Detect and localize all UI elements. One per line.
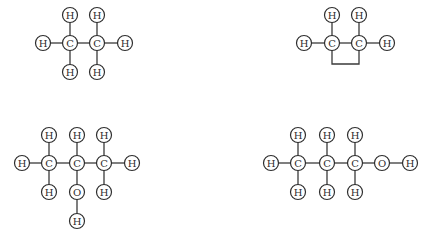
molecule-1-propanol: HCCCOHHHHHHH <box>264 128 418 200</box>
atom-label: C <box>66 38 74 49</box>
atom-c-c2: C <box>70 156 85 171</box>
atom-label: H <box>351 130 360 141</box>
atom-label: H <box>93 67 102 78</box>
atom-h-h1: H <box>264 156 279 171</box>
atom-h-h5: H <box>90 65 105 80</box>
atom-label: H <box>45 187 54 198</box>
atom-label: H <box>351 187 360 198</box>
atom-o-o1: O <box>375 156 390 171</box>
atom-c-c3: C <box>348 156 363 171</box>
molecule-2-propanol: CCCHHHHOHHHH <box>15 128 140 229</box>
atom-label: C <box>45 158 53 169</box>
atom-c-c1: C <box>325 36 340 51</box>
atom-h-h2: H <box>63 8 78 23</box>
atom-h-h6: H <box>118 36 133 51</box>
atom-h-h4: H <box>320 128 335 143</box>
atom-h-h2: H <box>325 8 340 23</box>
atom-label: H <box>328 10 337 21</box>
atom-label: O <box>378 158 386 169</box>
atom-label: C <box>328 38 336 49</box>
atom-c-c2: C <box>320 156 335 171</box>
atom-label: H <box>406 158 415 169</box>
atom-c-c1: C <box>63 36 78 51</box>
atom-label: H <box>323 130 332 141</box>
atom-h-h1: H <box>36 36 51 51</box>
atom-h-h5: H <box>70 214 85 229</box>
atom-label: H <box>66 10 75 21</box>
atom-label: C <box>93 38 101 49</box>
atom-h-h2: H <box>42 128 57 143</box>
atom-label: H <box>355 10 364 21</box>
atom-label: C <box>351 158 359 169</box>
atom-label: H <box>45 130 54 141</box>
atom-label: H <box>100 187 109 198</box>
molecule-ethane: CCHHHHHH <box>36 8 133 80</box>
atom-c-c1: C <box>291 156 306 171</box>
atom-label: H <box>100 130 109 141</box>
atom-h-h1: H <box>297 36 312 51</box>
atom-label: H <box>18 158 27 169</box>
atom-c-c3: C <box>97 156 112 171</box>
atom-label: H <box>39 38 48 49</box>
atom-h-h8: H <box>125 156 140 171</box>
atom-label: H <box>294 130 303 141</box>
atom-label: H <box>383 38 392 49</box>
atom-h-h3: H <box>42 185 57 200</box>
atom-label: H <box>300 38 309 49</box>
atom-label: H <box>128 158 137 169</box>
atom-h-h4: H <box>90 8 105 23</box>
atom-h-h3: H <box>63 65 78 80</box>
atom-h-h7: H <box>97 185 112 200</box>
atom-label: C <box>323 158 331 169</box>
atom-label: C <box>355 38 363 49</box>
atom-label: H <box>267 158 276 169</box>
atom-h-h3: H <box>352 8 367 23</box>
ring-bond <box>332 50 359 64</box>
atom-h-h6: H <box>348 128 363 143</box>
atom-label: H <box>121 38 130 49</box>
atom-h-h5: H <box>320 185 335 200</box>
atom-label: H <box>66 67 75 78</box>
atom-c-c2: C <box>352 36 367 51</box>
atom-label: H <box>73 216 82 227</box>
atom-h-h2: H <box>291 128 306 143</box>
atom-label: H <box>73 130 82 141</box>
atom-c-c2: C <box>90 36 105 51</box>
atom-c-c1: C <box>42 156 57 171</box>
atom-h-h4: H <box>380 36 395 51</box>
atom-label: C <box>294 158 302 169</box>
atom-label: O <box>73 187 81 198</box>
atom-h-h1: H <box>15 156 30 171</box>
atom-h-h3: H <box>291 185 306 200</box>
atom-h-h6: H <box>97 128 112 143</box>
atom-label: H <box>93 10 102 21</box>
atom-label: C <box>100 158 108 169</box>
atom-label: H <box>294 187 303 198</box>
atom-h-h4: H <box>70 128 85 143</box>
molecule-cyclic-c2-structure: CCHHHH <box>297 8 395 65</box>
atom-h-h7: H <box>348 185 363 200</box>
molecule-diagram-canvas: CCHHHHHHCCHHHHCCCHHHHOHHHHHCCCOHHHHHHH <box>0 0 430 245</box>
atom-o-o1: O <box>70 185 85 200</box>
atom-h-h8: H <box>403 156 418 171</box>
atom-label: C <box>73 158 81 169</box>
atom-label: H <box>323 187 332 198</box>
